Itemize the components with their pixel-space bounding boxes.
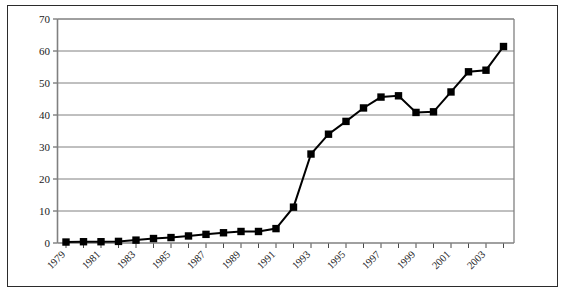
x-tick-label: 1983	[115, 249, 138, 272]
x-tick-label: 1985	[150, 249, 173, 272]
y-tick-label: 10	[39, 205, 51, 217]
y-tick-label: 40	[39, 109, 51, 121]
x-tick-label: 2001	[430, 249, 453, 272]
data-point-marker	[237, 228, 244, 235]
data-point-marker	[80, 238, 87, 245]
y-tick-labels-group: 010203040506070	[39, 13, 51, 249]
x-tick-label: 1989	[220, 249, 243, 272]
data-point-marker	[185, 232, 192, 239]
x-tick-label: 1991	[255, 249, 278, 272]
x-tick-label: 1997	[360, 249, 383, 272]
data-point-marker	[307, 150, 314, 157]
x-tick-marks-group	[66, 243, 504, 248]
plot-area: 010203040506070 197919811983198519871989…	[0, 0, 567, 294]
data-point-marker	[377, 93, 384, 100]
x-tick-labels-group: 1979198119831985198719891991199319951997…	[45, 249, 488, 272]
data-point-marker	[272, 225, 279, 232]
data-point-marker	[220, 229, 227, 236]
data-point-marker	[360, 104, 367, 111]
data-point-marker	[62, 238, 69, 245]
x-tick-label: 2003	[465, 249, 488, 272]
x-tick-label: 1999	[395, 249, 418, 272]
data-point-marker	[430, 108, 437, 115]
data-point-marker	[447, 88, 454, 95]
data-point-marker	[500, 43, 507, 50]
data-point-marker	[150, 235, 157, 242]
x-tick-label: 1993	[290, 249, 313, 272]
data-point-marker	[132, 236, 139, 243]
data-point-marker	[342, 118, 349, 125]
data-series-line	[66, 47, 504, 243]
data-point-marker	[255, 228, 262, 235]
line-chart-svg: 010203040506070 197919811983198519871989…	[0, 0, 567, 294]
y-tick-label: 70	[39, 13, 51, 25]
data-point-marker	[412, 109, 419, 116]
data-point-marker	[395, 92, 402, 99]
y-tick-label: 30	[39, 141, 51, 153]
y-tick-label: 0	[45, 237, 51, 249]
x-tick-label: 1981	[80, 249, 103, 272]
chart-figure: 010203040506070 197919811983198519871989…	[0, 0, 567, 294]
y-tick-label: 60	[39, 45, 51, 57]
data-point-marker	[167, 234, 174, 241]
y-tick-label: 20	[39, 173, 51, 185]
data-series-markers	[62, 43, 507, 246]
gridlines-group	[58, 19, 515, 211]
data-point-marker	[290, 203, 297, 210]
data-point-marker	[115, 238, 122, 245]
data-point-marker	[325, 131, 332, 138]
data-point-marker	[97, 238, 104, 245]
y-tick-label: 50	[39, 77, 51, 89]
axis-lines-group	[58, 19, 515, 243]
data-point-marker	[482, 67, 489, 74]
x-tick-label: 1979	[45, 249, 68, 272]
data-point-marker	[465, 68, 472, 75]
x-tick-label: 1987	[185, 249, 208, 272]
x-tick-label: 1995	[325, 249, 348, 272]
data-point-marker	[202, 231, 209, 238]
